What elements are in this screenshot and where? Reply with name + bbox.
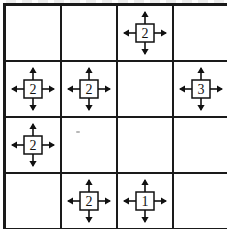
grid-row: 2 bbox=[5, 61, 227, 117]
grid-row: 2 bbox=[5, 5, 227, 61]
scan-speckle bbox=[76, 131, 80, 133]
grid-cell-r3c1[interactable]: 2 bbox=[5, 117, 61, 173]
arrow-clue-icon: 2 bbox=[10, 66, 56, 112]
grid-cell-r2c4[interactable]: 3 bbox=[173, 61, 227, 117]
clue-value: 1 bbox=[142, 194, 149, 209]
arrow-clue-icon: 2 bbox=[10, 122, 56, 168]
grid-cell-r3c2[interactable] bbox=[61, 117, 117, 173]
grid-cell-r1c4[interactable] bbox=[173, 5, 227, 61]
grid-cell-r1c3[interactable]: 2 bbox=[117, 5, 173, 61]
grid-cell-r1c1[interactable] bbox=[5, 5, 61, 61]
clue-value: 2 bbox=[30, 138, 37, 153]
grid-cell-r4c1[interactable] bbox=[5, 173, 61, 229]
grid-cell-r4c2[interactable]: 2 bbox=[61, 173, 117, 229]
puzzle-grid-container: 2 bbox=[0, 0, 227, 229]
clue-value: 2 bbox=[30, 82, 37, 97]
arrow-clue-icon: 2 bbox=[122, 10, 168, 56]
grid-cell-r4c4[interactable] bbox=[173, 173, 227, 229]
puzzle-grid-table: 2 bbox=[4, 4, 227, 229]
clue-value: 3 bbox=[198, 82, 205, 97]
grid-wrapper: 2 bbox=[4, 4, 223, 225]
grid-cell-r4c3[interactable]: 1 bbox=[117, 173, 173, 229]
grid-cell-r2c1[interactable]: 2 bbox=[5, 61, 61, 117]
arrow-clue-icon: 2 bbox=[66, 66, 112, 112]
clue-value: 2 bbox=[86, 82, 93, 97]
clue-value: 2 bbox=[142, 26, 149, 41]
arrow-clue-icon: 3 bbox=[178, 66, 224, 112]
grid-row: 2 bbox=[5, 117, 227, 173]
arrow-clue-icon: 1 bbox=[122, 178, 168, 224]
grid-cell-r3c3[interactable] bbox=[117, 117, 173, 173]
arrow-clue-icon: 2 bbox=[66, 178, 112, 224]
grid-cell-r3c4[interactable] bbox=[173, 117, 227, 173]
grid-row: 2 bbox=[5, 173, 227, 229]
grid-cell-r2c3[interactable] bbox=[117, 61, 173, 117]
grid-body: 2 bbox=[5, 5, 227, 229]
clue-value: 2 bbox=[86, 194, 93, 209]
grid-cell-r2c2[interactable]: 2 bbox=[61, 61, 117, 117]
grid-cell-r1c2[interactable] bbox=[61, 5, 117, 61]
